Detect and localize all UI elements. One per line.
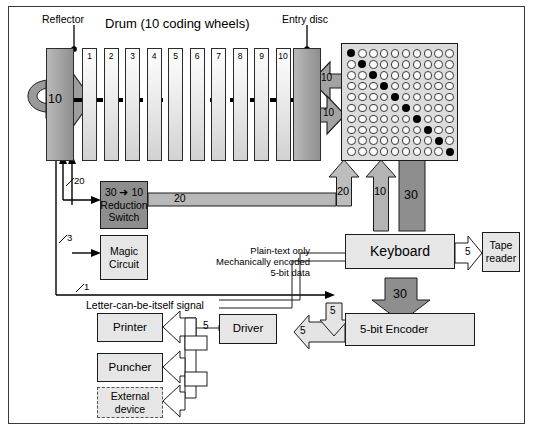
matrix-dot-empty[interactable]: [402, 93, 411, 102]
matrix-dot-empty[interactable]: [413, 104, 422, 113]
matrix-dot-empty[interactable]: [391, 147, 400, 156]
matrix-dot-empty[interactable]: [434, 82, 443, 91]
matrix-dot-empty[interactable]: [358, 147, 367, 156]
matrix-dot-empty[interactable]: [402, 126, 411, 135]
matrix-dot-empty[interactable]: [369, 60, 378, 69]
matrix-dot-empty[interactable]: [434, 60, 443, 69]
matrix-dot-empty[interactable]: [424, 82, 433, 91]
matrix-dot-empty[interactable]: [402, 71, 411, 80]
matrix-dot-empty[interactable]: [369, 104, 378, 113]
matrix-dot-empty[interactable]: [424, 115, 433, 124]
matrix-dot-filled[interactable]: [391, 93, 399, 101]
matrix-dot-empty[interactable]: [347, 60, 356, 69]
matrix-dot-empty[interactable]: [424, 71, 433, 80]
matrix-dot-empty[interactable]: [445, 126, 454, 135]
matrix-dot-empty[interactable]: [347, 136, 356, 145]
matrix-dot-empty[interactable]: [391, 126, 400, 135]
matrix-dot-empty[interactable]: [380, 60, 389, 69]
matrix-dot-empty[interactable]: [369, 115, 378, 124]
matrix-dot-empty[interactable]: [445, 60, 454, 69]
matrix-dot-empty[interactable]: [369, 49, 378, 58]
matrix-dot-empty[interactable]: [380, 49, 389, 58]
matrix-dot-empty[interactable]: [358, 115, 367, 124]
matrix-dot-empty[interactable]: [369, 82, 378, 91]
matrix-dot-empty[interactable]: [391, 49, 400, 58]
matrix-dot-filled[interactable]: [369, 71, 377, 79]
matrix-dot-empty[interactable]: [358, 71, 367, 80]
external-device-box[interactable]: External device: [97, 387, 163, 418]
matrix-dot-empty[interactable]: [369, 126, 378, 135]
matrix-dot-empty[interactable]: [380, 147, 389, 156]
coding-wheel[interactable]: [82, 48, 97, 161]
matrix-dot-empty[interactable]: [402, 136, 411, 145]
driver-box[interactable]: Driver: [219, 314, 277, 344]
matrix-dot-empty[interactable]: [347, 115, 356, 124]
matrix-dot-empty[interactable]: [358, 82, 367, 91]
matrix-dot-empty[interactable]: [402, 147, 411, 156]
coding-wheel[interactable]: [276, 48, 291, 161]
matrix-dot-empty[interactable]: [380, 136, 389, 145]
coding-wheel[interactable]: [233, 48, 248, 161]
coding-wheel[interactable]: [147, 48, 162, 161]
encoder-box[interactable]: 5-bit Encoder: [345, 313, 475, 346]
matrix-dot-empty[interactable]: [413, 71, 422, 80]
matrix-dot-empty[interactable]: [413, 49, 422, 58]
matrix-dot-empty[interactable]: [424, 93, 433, 102]
matrix-dot-empty[interactable]: [434, 126, 443, 135]
matrix-dot-empty[interactable]: [391, 60, 400, 69]
matrix-dot-empty[interactable]: [434, 115, 443, 124]
matrix-dot-filled[interactable]: [347, 49, 355, 57]
matrix-dot-empty[interactable]: [424, 136, 433, 145]
tape-reader-box[interactable]: Tape reader: [482, 232, 520, 272]
matrix-dot-empty[interactable]: [380, 104, 389, 113]
matrix-dot-empty[interactable]: [424, 104, 433, 113]
matrix-dot-empty[interactable]: [380, 93, 389, 102]
coding-wheel[interactable]: [104, 48, 119, 161]
matrix-dot-empty[interactable]: [369, 147, 378, 156]
matrix-dot-empty[interactable]: [413, 136, 422, 145]
matrix-dot-empty[interactable]: [347, 82, 356, 91]
matrix-dot-empty[interactable]: [445, 49, 454, 58]
matrix-dot-empty[interactable]: [347, 93, 356, 102]
keyboard-box[interactable]: Keyboard: [345, 234, 455, 269]
matrix-dot-empty[interactable]: [358, 136, 367, 145]
matrix-dot-empty[interactable]: [445, 82, 454, 91]
matrix-dot-empty[interactable]: [347, 147, 356, 156]
matrix-dot-empty[interactable]: [380, 71, 389, 80]
matrix-dot-empty[interactable]: [402, 82, 411, 91]
matrix-dot-empty[interactable]: [434, 147, 443, 156]
matrix-dot-empty[interactable]: [434, 93, 443, 102]
matrix-dot-empty[interactable]: [347, 126, 356, 135]
coding-wheel[interactable]: [254, 48, 269, 161]
matrix-dot-empty[interactable]: [369, 136, 378, 145]
matrix-dot-filled[interactable]: [358, 60, 366, 68]
coding-wheel[interactable]: [211, 48, 226, 161]
matrix-dot-empty[interactable]: [358, 93, 367, 102]
matrix-dot-empty[interactable]: [391, 136, 400, 145]
matrix-dot-filled[interactable]: [380, 82, 388, 90]
printer-box[interactable]: Printer: [97, 313, 163, 342]
matrix-dot-empty[interactable]: [445, 93, 454, 102]
matrix-dot-empty[interactable]: [413, 93, 422, 102]
matrix-dot-empty[interactable]: [402, 115, 411, 124]
matrix-dot-filled[interactable]: [435, 137, 443, 145]
matrix-dot-empty[interactable]: [347, 104, 356, 113]
coding-wheel[interactable]: [168, 48, 183, 161]
matrix-dot-empty[interactable]: [391, 104, 400, 113]
matrix-dot-empty[interactable]: [434, 71, 443, 80]
matrix-dot-empty[interactable]: [413, 60, 422, 69]
matrix-dot-empty[interactable]: [391, 71, 400, 80]
matrix-dot-empty[interactable]: [424, 147, 433, 156]
matrix-dot-empty[interactable]: [358, 126, 367, 135]
matrix-dot-empty[interactable]: [445, 115, 454, 124]
matrix-dot-empty[interactable]: [434, 104, 443, 113]
matrix-dot-empty[interactable]: [402, 49, 411, 58]
coding-wheel[interactable]: [190, 48, 205, 161]
matrix-dot-empty[interactable]: [434, 49, 443, 58]
matrix-dot-empty[interactable]: [391, 115, 400, 124]
matrix-dot-empty[interactable]: [424, 60, 433, 69]
matrix-dot-empty[interactable]: [358, 49, 367, 58]
matrix-dot-empty[interactable]: [402, 60, 411, 69]
matrix-dot-filled[interactable]: [424, 126, 432, 134]
puncher-box[interactable]: Puncher: [97, 353, 163, 382]
